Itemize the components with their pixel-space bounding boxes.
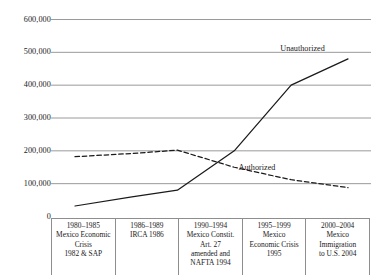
series-line-authorized: [75, 150, 348, 187]
period-cell-line: 1986–1989: [117, 221, 178, 230]
period-cell-line: 1982 & SAP: [53, 249, 114, 258]
period-cell-line: amended and: [180, 249, 241, 258]
period-cell-line: Art. 27: [180, 240, 241, 249]
period-cell-5: 2000–2004MexicoImmigrationto U.S. 2004: [306, 219, 369, 275]
period-cell-line: Economic Crisis: [244, 240, 305, 249]
period-cell-line: 1980–1985: [53, 221, 114, 230]
line-chart-plot: UnauthorizedAuthorized: [0, 0, 388, 220]
period-cell-line: Crisis: [53, 240, 114, 249]
series-label-unauthorized: Unauthorized: [280, 44, 325, 53]
period-cell-4: 1995–1999MexicoEconomic Crisis1995: [243, 219, 307, 275]
period-cell-2: 1986–1989IRCA 1986: [116, 219, 180, 275]
period-cell-3: 1990–1994Mexico Constit.Art. 27amended a…: [179, 219, 243, 275]
period-cell-line: 1995–1999: [244, 221, 305, 230]
period-event-table: 1980–1985Mexico EconomicCrisis1982 & SAP…: [51, 218, 370, 275]
period-cell-line: to U.S. 2004: [307, 249, 368, 258]
period-cell-line: 1990–1994: [180, 221, 241, 230]
period-cell-line: Immigration: [307, 240, 368, 249]
period-cell-line: 1995: [244, 249, 305, 258]
period-cell-line: Mexico Constit.: [180, 230, 241, 239]
series-label-authorized: Authorized: [239, 163, 276, 172]
period-cell-line: Mexico Economic: [53, 230, 114, 239]
period-cell-line: NAFTA 1994: [180, 258, 241, 267]
period-cell-line: IRCA 1986: [117, 230, 178, 239]
period-cell-1: 1980–1985Mexico EconomicCrisis1982 & SAP: [52, 219, 116, 275]
period-cell-line: Mexico: [244, 230, 305, 239]
period-cell-line: 2000–2004: [307, 221, 368, 230]
period-cell-line: Mexico: [307, 230, 368, 239]
immigration-flows-figure: 600,000500,000400,000300,000200,000100,0…: [0, 0, 388, 276]
series-annotations: UnauthorizedAuthorized: [239, 44, 325, 172]
